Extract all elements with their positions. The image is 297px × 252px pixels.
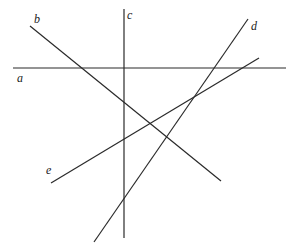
label-a: a xyxy=(17,71,23,85)
line-b xyxy=(30,26,221,181)
line-d xyxy=(94,19,248,242)
label-c: c xyxy=(127,8,133,22)
lines-diagram: a b c d e xyxy=(0,0,297,252)
label-e: e xyxy=(46,163,52,177)
label-b: b xyxy=(34,12,40,26)
label-d: d xyxy=(251,19,258,33)
line-e xyxy=(51,58,259,183)
